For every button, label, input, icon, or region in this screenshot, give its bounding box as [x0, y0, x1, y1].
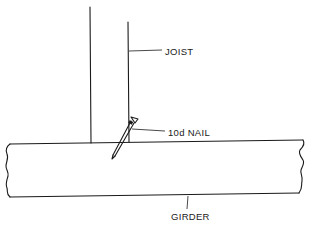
joist-label: JOIST [165, 46, 193, 57]
nail-shank-left [113, 121, 131, 155]
nail-label: 10d NAIL [168, 127, 210, 138]
girder [6, 140, 304, 197]
nail-point [112, 155, 115, 159]
girder-label: GIRDER [171, 211, 210, 222]
joist-girder-diagram: JOIST 10d NAIL GIRDER [0, 0, 316, 225]
girder-bottom-edge [10, 193, 299, 197]
joist-left-edge [90, 7, 91, 143]
nail-shank-right [115, 123, 134, 156]
girder-top-edge [10, 140, 303, 144]
joist [90, 7, 129, 143]
joist-leader-line [129, 50, 162, 51]
girder-leader-line [187, 196, 188, 209]
girder-left-break [6, 144, 10, 197]
girder-right-break [299, 140, 304, 193]
nail-leader-line [132, 129, 165, 131]
nail-icon [112, 117, 138, 159]
